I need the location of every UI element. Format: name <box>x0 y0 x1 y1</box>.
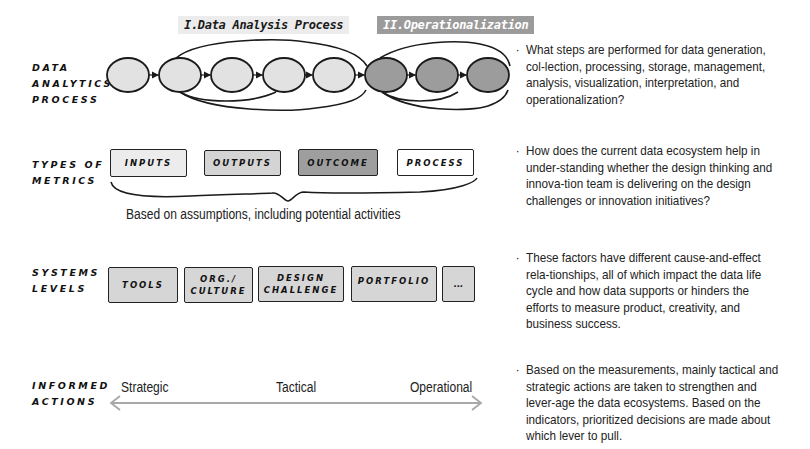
metrics-brace-icon <box>111 178 477 201</box>
actions-scale-arrow-icon <box>111 396 481 410</box>
loop-arc-lower-inner-2 <box>382 92 458 101</box>
system-box-org-culture: ORG./ CULTURE <box>184 267 253 303</box>
metric-box-inputs: INPUTS <box>110 149 187 177</box>
bullet-dot-icon: · <box>516 42 520 59</box>
process-node-4 <box>263 58 305 92</box>
process-node-6 <box>365 58 407 92</box>
metric-box-outputs: OUTPUTS <box>204 150 281 176</box>
process-node-3 <box>211 58 253 92</box>
system-box-design-challenge: DESIGN CHALLENGE <box>258 266 344 302</box>
scale-label-tactical: Tactical <box>276 379 316 395</box>
process-node-7 <box>416 58 458 92</box>
scale-label-operational: Operational <box>410 379 472 395</box>
system-box-more: ... <box>442 266 475 302</box>
bullet-dot-icon: · <box>516 362 520 379</box>
process-node-2 <box>159 58 201 92</box>
metric-box-process: PROCESS <box>397 149 474 176</box>
bullet-dot-icon: · <box>516 143 520 160</box>
scale-label-strategic: Strategic <box>121 379 169 395</box>
bullet-systems-levels: · These factors have different cause-and… <box>526 250 784 333</box>
process-node-1 <box>107 58 149 92</box>
process-node-5 <box>313 58 355 92</box>
bullet-dot-icon: · <box>516 250 520 267</box>
system-box-tools: TOOLS <box>108 267 178 303</box>
process-node-8 <box>467 58 509 92</box>
system-box-portfolio: PORTFOLIO <box>351 266 437 302</box>
bullet-types-of-metrics: · How does the current data ecosystem he… <box>526 143 784 209</box>
metrics-caption: Based on assumptions, including potentia… <box>126 206 400 222</box>
metric-box-outcome: OUTCOME <box>298 149 378 176</box>
bullet-informed-actions: · Based on the measurements, mainly tact… <box>526 362 784 445</box>
bullet-data-analytics-process: · What steps are performed for data gene… <box>526 42 784 108</box>
